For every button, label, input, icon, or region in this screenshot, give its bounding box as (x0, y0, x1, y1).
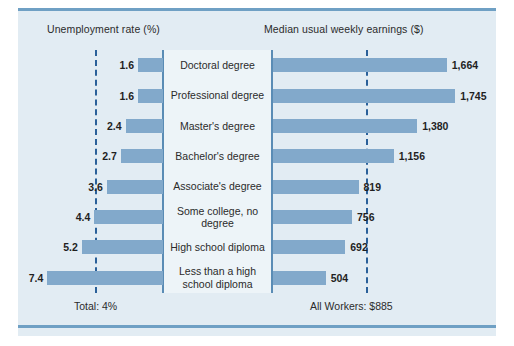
category-label: High school diploma (166, 232, 269, 262)
bar-value-earnings: 692 (350, 240, 368, 254)
category-label: Master's degree (166, 111, 269, 141)
bar-value-earnings: 1,156 (399, 149, 425, 163)
bar-value-unemployment: 5.2 (63, 240, 78, 254)
bar-unemployment (107, 180, 163, 194)
bar-value-unemployment: 3.6 (88, 180, 103, 194)
category-label: Less than a high school diploma (166, 263, 269, 293)
bar-value-earnings: 1,380 (422, 119, 448, 133)
bar-unemployment (126, 119, 164, 133)
bar-earnings (273, 58, 447, 72)
bar-value-unemployment: 1.6 (119, 89, 134, 103)
bar-value-unemployment: 4.4 (76, 210, 91, 224)
chart-rows: 1.6Doctoral degree1,6641.6Professional d… (0, 50, 514, 293)
chart-row: 1.6Doctoral degree1,664 (0, 50, 514, 80)
bar-unemployment (82, 240, 163, 254)
bar-value-unemployment: 7.4 (29, 271, 44, 285)
right-reference-label: All Workers: $885 (310, 300, 393, 312)
bar-unemployment (138, 89, 163, 103)
category-label: Bachelor's degree (166, 141, 269, 171)
bar-unemployment (138, 58, 163, 72)
bar-earnings (273, 180, 359, 194)
chart-row: 2.7Bachelor's degree1,156 (0, 141, 514, 171)
bar-unemployment (121, 149, 163, 163)
bar-value-unemployment: 2.4 (107, 119, 122, 133)
chart-figure: Unemployment rate (%) Median usual weekl… (0, 0, 514, 346)
bar-value-earnings: 1,664 (452, 58, 478, 72)
bar-earnings (273, 240, 345, 254)
bar-value-unemployment: 1.6 (119, 58, 134, 72)
bar-unemployment (47, 271, 163, 285)
bar-earnings (273, 89, 455, 103)
chart-row: 3.6Associate's degree819 (0, 172, 514, 202)
bar-earnings (273, 210, 352, 224)
bar-value-earnings: 1,745 (460, 89, 486, 103)
bar-value-earnings: 756 (357, 210, 375, 224)
bar-value-earnings: 504 (331, 271, 349, 285)
category-label: Doctoral degree (166, 50, 269, 80)
chart-row: 5.2High school diploma692 (0, 232, 514, 262)
chart-row: 7.4Less than a high school diploma504 (0, 263, 514, 293)
chart-row: 1.6Professional degree1,745 (0, 80, 514, 110)
chart-row: 4.4Some college, no degree756 (0, 202, 514, 232)
bar-value-unemployment: 2.7 (102, 149, 117, 163)
right-panel-title: Median usual weekly earnings ($) (264, 23, 424, 35)
left-panel-title: Unemployment rate (%) (47, 23, 160, 35)
bar-earnings (273, 119, 417, 133)
category-label: Some college, no degree (166, 202, 269, 232)
category-label: Professional degree (166, 80, 269, 110)
bar-earnings (273, 149, 394, 163)
category-label: Associate's degree (166, 172, 269, 202)
bar-unemployment (94, 210, 163, 224)
bottom-rule (18, 325, 496, 328)
chart-row: 2.4Master's degree1,380 (0, 111, 514, 141)
top-rule (18, 8, 496, 11)
left-reference-label: Total: 4% (74, 300, 117, 312)
bar-value-earnings: 819 (364, 180, 382, 194)
bar-earnings (273, 271, 326, 285)
